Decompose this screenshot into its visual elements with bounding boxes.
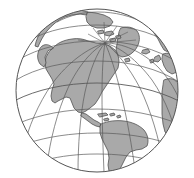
land-africa-northwest [162,79,182,136]
globe-figure: World globe, Americas-centered orthograp… [0,0,194,178]
globe-svg [0,0,194,178]
